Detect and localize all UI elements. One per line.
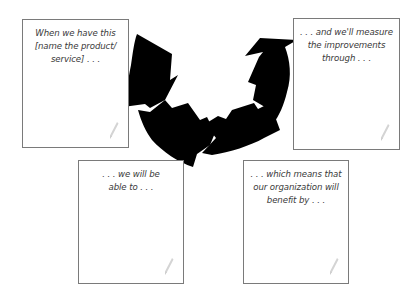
- card-prompt-text: When we have this [name the product/ ser…: [27, 27, 124, 66]
- card-line: . . . and we'll measure: [298, 26, 395, 39]
- note-card-top-left[interactable]: When we have this [name the product/ ser…: [22, 19, 129, 148]
- pencil-icon: [109, 121, 119, 141]
- pencil-icon: [164, 257, 174, 277]
- card-prompt-text: . . . and we'll measure the improvements…: [298, 26, 395, 65]
- card-line: our organization will: [248, 181, 344, 194]
- card-line: the improvements: [298, 39, 395, 52]
- card-line: service] . . .: [27, 53, 124, 66]
- curved-arrow-2-icon: [138, 100, 215, 167]
- card-line: When we have this: [27, 27, 124, 40]
- card-line: . . . which means that: [248, 168, 344, 181]
- note-card-bottom-right[interactable]: . . . which means that our organization …: [243, 160, 349, 284]
- curved-arrow-1-icon: [123, 34, 178, 108]
- card-line: through . . .: [298, 52, 395, 65]
- card-prompt-text: . . . we will be able to . . .: [83, 168, 179, 194]
- pencil-icon: [380, 123, 390, 143]
- card-line: able to . . .: [83, 181, 179, 194]
- card-line: [name the product/: [27, 40, 124, 53]
- pencil-icon: [329, 257, 339, 277]
- note-card-top-right[interactable]: . . . and we'll measure the improvements…: [293, 18, 400, 150]
- curved-arrow-3-icon: [202, 103, 280, 155]
- note-card-bottom-left[interactable]: . . . we will be able to . . .: [78, 160, 184, 284]
- card-prompt-text: . . . which means that our organization …: [248, 168, 344, 207]
- curved-arrow-4-icon: [245, 38, 297, 124]
- card-line: . . . we will be: [83, 168, 179, 181]
- card-line: benefit by . . .: [248, 194, 344, 207]
